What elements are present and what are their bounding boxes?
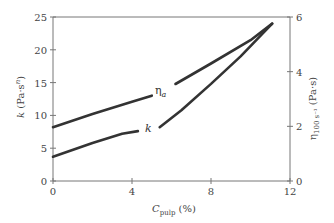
axis-ticks xyxy=(50,17,293,184)
tick-label: 2 xyxy=(296,121,302,132)
tick-label: 0 xyxy=(50,186,56,197)
tick-label: 25 xyxy=(34,12,47,23)
curve-k xyxy=(53,131,138,157)
tick-label: 5 xyxy=(41,143,47,154)
curve-eta xyxy=(176,24,273,84)
tick-label: 8 xyxy=(208,186,214,197)
tick-label: 0 xyxy=(41,176,47,187)
tick-label: 20 xyxy=(34,45,47,56)
curve-label-eta: ηa xyxy=(155,84,167,99)
y-right-axis-label: η100 s⁻¹ (Pa·s) xyxy=(307,77,321,140)
x-axis-label: Cpulp (%) xyxy=(152,203,196,217)
y-left-axis-label: k (Pa·sn) xyxy=(14,76,26,118)
curve-eta xyxy=(53,96,152,128)
chart: 0481205101520250246 ηa k Cpulp (%) k (Pa… xyxy=(0,0,334,223)
tick-label: 12 xyxy=(284,186,297,197)
tick-label: 6 xyxy=(296,12,302,23)
tick-label: 15 xyxy=(34,78,47,89)
curve-label-k: k xyxy=(145,122,152,135)
tick-label: 4 xyxy=(296,67,302,78)
tick-labels: 0481205101520250246 xyxy=(34,12,302,197)
tick-label: 0 xyxy=(296,176,302,187)
curve-k xyxy=(160,24,273,128)
tick-label: 10 xyxy=(34,110,47,121)
tick-label: 4 xyxy=(129,186,135,197)
